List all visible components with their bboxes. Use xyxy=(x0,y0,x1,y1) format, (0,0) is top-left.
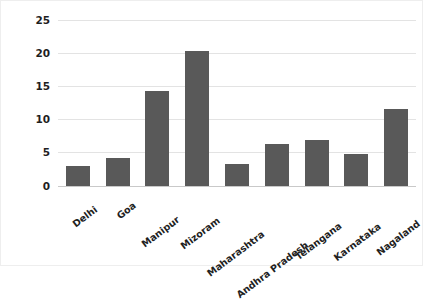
bars-layer xyxy=(58,20,416,186)
bar xyxy=(265,144,289,186)
bar-slot xyxy=(257,20,297,186)
bar-slot xyxy=(376,20,416,186)
x-axis-tick-label: Maharashtra xyxy=(260,187,322,237)
bar-slot xyxy=(58,20,98,186)
y-axis-tick-label: 5 xyxy=(10,147,50,158)
y-axis-tick-labels: 0510152025 xyxy=(1,20,58,186)
y-axis-tick-label: 20 xyxy=(10,48,50,59)
bar-slot xyxy=(336,20,376,186)
bar xyxy=(66,166,90,185)
y-axis-tick-label: 0 xyxy=(10,180,50,191)
bar xyxy=(225,164,249,185)
bar-slot xyxy=(138,20,178,186)
bar xyxy=(305,140,329,186)
y-axis-tick-label: 15 xyxy=(10,81,50,92)
y-axis-tick-label: 25 xyxy=(10,15,50,26)
bar-slot xyxy=(177,20,217,186)
x-axis-tick-labels: DelhiGoaManipurMizoramMaharashtraAndhra … xyxy=(58,187,416,263)
x-axis-tick-label: Mizoram xyxy=(216,187,260,224)
bar-slot xyxy=(98,20,138,186)
bar-slot xyxy=(297,20,337,186)
bar xyxy=(344,154,368,185)
y-axis-tick-label: 10 xyxy=(10,114,50,125)
bar xyxy=(106,158,130,185)
bar-slot xyxy=(217,20,257,186)
bar xyxy=(145,91,169,186)
bar xyxy=(384,109,408,185)
bar xyxy=(185,51,209,185)
x-axis-tick-label: Goa xyxy=(131,187,154,208)
